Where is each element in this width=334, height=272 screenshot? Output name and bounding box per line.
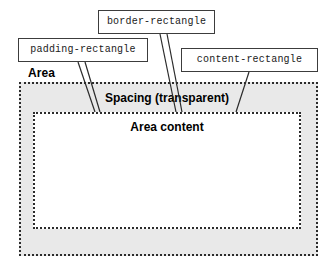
- callout-border-rectangle[interactable]: border-rectangle: [98, 10, 215, 34]
- callout-content-rectangle[interactable]: content-rectangle: [181, 48, 318, 72]
- spacing-label: Spacing (transparent): [0, 91, 334, 105]
- callout-padding-rectangle[interactable]: padding-rectangle: [18, 38, 148, 62]
- area-label: Area: [28, 66, 55, 80]
- area-content-label: Area content: [33, 120, 301, 134]
- box-model-diagram: border-rectangle padding-rectangle conte…: [0, 0, 334, 272]
